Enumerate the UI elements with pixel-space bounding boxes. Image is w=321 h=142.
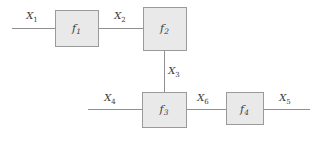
block-f1[interactable]: f1 bbox=[56, 11, 99, 47]
signal-label-x4: X4 bbox=[103, 92, 116, 106]
signal-label-x5: X5 bbox=[278, 92, 291, 106]
signal-label-x2: X2 bbox=[113, 10, 126, 24]
block-f2[interactable]: f2 bbox=[144, 8, 187, 51]
diagram-canvas: f1 f2 f3 f4 X1 X2 bbox=[0, 0, 321, 142]
block-f3[interactable]: f3 bbox=[143, 93, 187, 128]
signal-label-x3: X3 bbox=[167, 65, 180, 79]
signal-label-x6: X6 bbox=[196, 92, 209, 106]
block-diagram-svg: f1 f2 f3 f4 X1 X2 bbox=[0, 0, 321, 142]
block-f4[interactable]: f4 bbox=[227, 93, 264, 125]
signal-label-x1: X1 bbox=[25, 10, 38, 24]
